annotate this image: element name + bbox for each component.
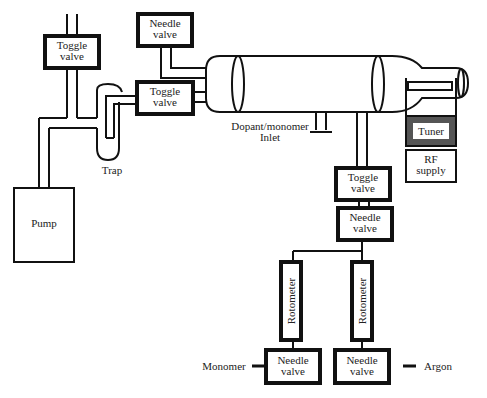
rotometer-left-label: Rotometer xyxy=(285,266,297,336)
trap-label: Trap xyxy=(92,165,132,176)
pump-label: Pump xyxy=(14,218,74,229)
inlet-label: Dopant/monomer Inlet xyxy=(230,121,310,143)
top-outlet-pipe xyxy=(67,14,77,36)
argon-label: Argon xyxy=(418,361,458,372)
needle-valve-left-label: Needle valve xyxy=(266,355,320,377)
needle-valve-mid-label: Needle valve xyxy=(338,212,392,234)
monomer-label: Monomer xyxy=(196,361,252,372)
reaction-chamber xyxy=(206,56,468,112)
needle-valve-right-label: Needle valve xyxy=(335,355,389,377)
rotometer-right-label: Rotometer xyxy=(356,266,368,336)
rf-supply-label: RF supply xyxy=(406,154,456,176)
needle-valve-top-label: Needle valve xyxy=(138,18,192,40)
toggle-valve-bottom-label: Toggle valve xyxy=(336,172,390,194)
toggle-valve-trap-label: Toggle valve xyxy=(137,86,193,108)
toggle-valve-top-label: Toggle valve xyxy=(45,40,99,62)
tuner-label: Tuner xyxy=(406,126,456,137)
